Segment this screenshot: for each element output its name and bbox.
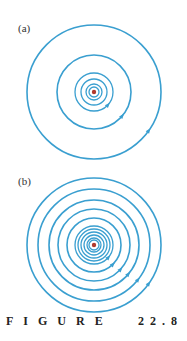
- field-lines-diagram: [0, 0, 187, 341]
- panel-b-circles: [27, 178, 161, 312]
- caption-number: 22.8: [138, 314, 183, 329]
- caption-word: FIGURE: [6, 314, 113, 329]
- figure-caption: FIGURE 22.8: [0, 314, 187, 334]
- center-charge-dot: [92, 243, 96, 247]
- center-charge-dot: [92, 90, 96, 94]
- panel-a-circles: [27, 25, 161, 159]
